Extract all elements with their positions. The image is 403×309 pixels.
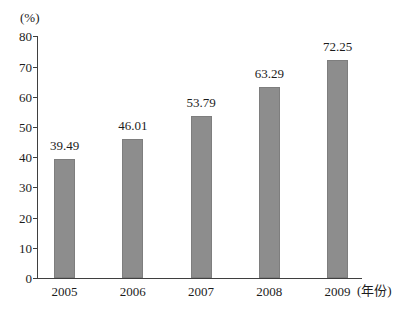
bar-value-label: 72.25 [308, 40, 368, 53]
y-axis-line [37, 36, 38, 278]
y-tick [33, 278, 37, 279]
y-tick-label: 70 [6, 61, 32, 74]
bar [54, 159, 75, 278]
y-tick [33, 67, 37, 68]
bar-value-label: 39.49 [35, 139, 95, 152]
bar-chart: (%) (年份) 0102030405060708039.49200546.01… [0, 0, 403, 309]
bar [191, 116, 212, 278]
y-tick [33, 187, 37, 188]
y-tick-label: 30 [6, 181, 32, 194]
x-tick-label: 2009 [308, 285, 368, 298]
bar [122, 139, 143, 278]
y-tick-label: 40 [6, 151, 32, 164]
y-tick-label: 50 [6, 121, 32, 134]
y-tick [33, 157, 37, 158]
y-tick-label: 20 [6, 212, 32, 225]
y-tick-label: 60 [6, 91, 32, 104]
bar-value-label: 53.79 [171, 96, 231, 109]
x-tick-label: 2006 [103, 285, 163, 298]
x-tick-label: 2007 [171, 285, 231, 298]
x-tick-label: 2005 [35, 285, 95, 298]
y-tick-label: 80 [6, 30, 32, 43]
bar-value-label: 63.29 [239, 67, 299, 80]
y-axis-unit-label: (%) [20, 11, 40, 25]
y-tick [33, 97, 37, 98]
y-tick [33, 127, 37, 128]
y-tick [33, 218, 37, 219]
bar-value-label: 46.01 [103, 119, 163, 132]
y-tick [33, 248, 37, 249]
x-tick-label: 2008 [239, 285, 299, 298]
bar [327, 60, 348, 278]
y-tick [33, 36, 37, 37]
x-axis-line [37, 278, 362, 279]
y-tick-label: 10 [6, 242, 32, 255]
bar [259, 87, 280, 278]
y-tick-label: 0 [6, 272, 32, 285]
